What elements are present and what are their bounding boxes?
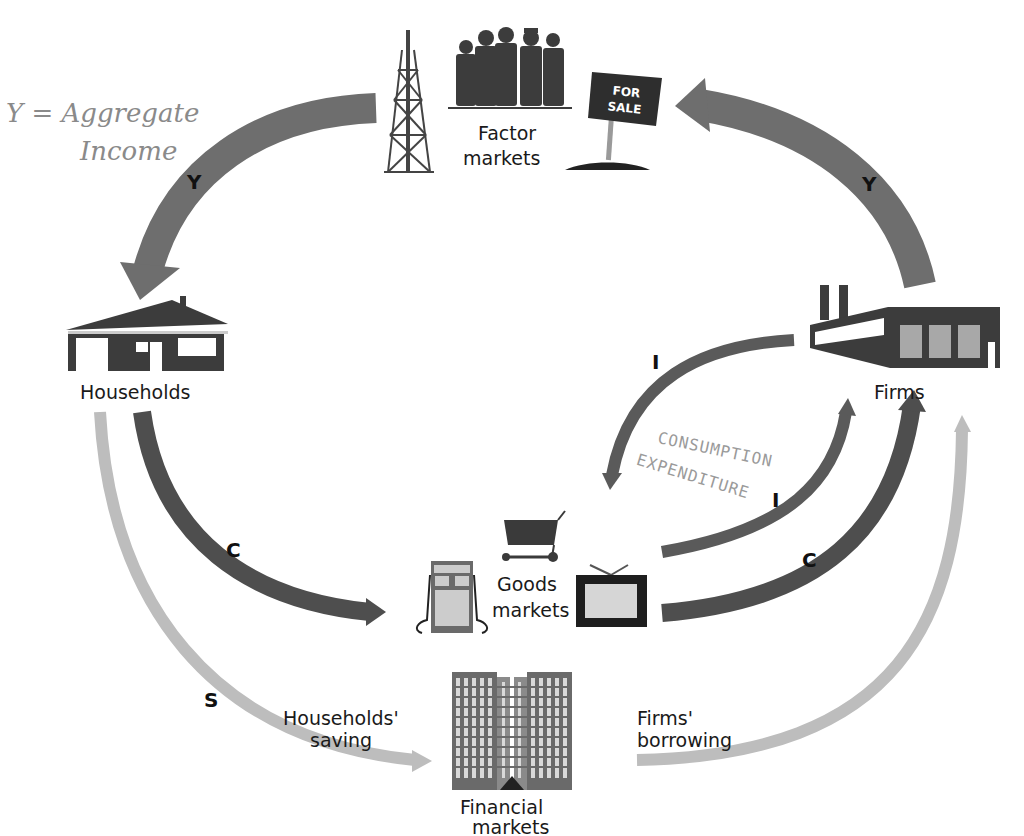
circular-flow-diagram: FOR SALE: [0, 0, 1024, 836]
firms-borrowing-label-line2: borrowing: [637, 728, 732, 752]
gas-pump-icon: [417, 561, 487, 633]
households-saving-label-line1: Households': [283, 706, 399, 730]
flow-label-y-right: Y: [862, 172, 876, 196]
svg-text:FOR: FOR: [612, 84, 641, 101]
annotation-aggregate-income-line2: Income: [80, 136, 177, 166]
shopping-cart-icon: [502, 511, 565, 562]
television-icon: [576, 565, 647, 627]
for-sale-sign-icon: FOR SALE: [565, 72, 662, 170]
goods-markets-label-line2: markets: [492, 598, 569, 622]
flow-label-s: S: [204, 688, 218, 712]
flow-label-c-right: C: [802, 548, 817, 572]
firms-label: Firms: [874, 380, 925, 404]
oil-derrick-icon: [384, 30, 434, 172]
financial-buildings-icon: [452, 672, 572, 790]
factory-icon: [810, 285, 1000, 368]
annotation-aggregate-income-line1: Y = Aggregate: [6, 98, 199, 128]
flow-label-i-top: I: [652, 350, 659, 374]
factor-markets-label-line2: markets: [463, 146, 540, 170]
financial-markets-label-line2: markets: [472, 815, 549, 836]
income-arrow-from-firms: [675, 78, 920, 285]
households-saving-label-line2: saving: [310, 728, 372, 752]
flow-label-y-left: Y: [187, 170, 201, 194]
flow-label-i-mid: I: [772, 488, 779, 512]
goods-markets-label-line1: Goods: [497, 572, 557, 596]
consumption-arrow-to-goods-markets: [142, 412, 386, 626]
firms-borrowing-label-line1: Firms': [637, 706, 693, 730]
factor-markets-label-line1: Factor: [478, 121, 536, 145]
house-icon: [66, 296, 228, 371]
households-label: Households: [80, 380, 190, 404]
flow-label-c-left: C: [226, 538, 241, 562]
workers-icon: [448, 27, 572, 109]
